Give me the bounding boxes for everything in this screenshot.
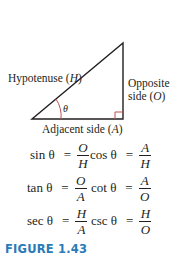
adjacent-label: Adjacent side (A) [42,123,123,136]
equation-sec: sec θ= HA [27,206,87,236]
equation-cot: cot θ= AO [91,173,151,203]
figure-caption: FIGURE 1.43 [5,242,87,256]
figure: Hypotenuse (H) Opposite side (O) θ Adjac… [0,0,172,261]
equation-sin: sin θ= OH [30,140,89,170]
angle-arc-icon [56,99,61,119]
equation-row: tan θ= OA cot θ= AO [0,173,172,203]
hypotenuse-label: Hypotenuse (H) [8,72,82,85]
equation-tan: tan θ= OA [27,173,87,203]
equation-row: sec θ= HA csc θ= HO [0,206,172,236]
equation-row: sin θ= OH cos θ= AH [0,140,172,170]
right-angle-marker-icon [115,112,123,119]
equation-csc: csc θ= HO [91,206,151,236]
opposite-label-line2: side (O) [128,90,165,103]
opposite-label-line1: Opposite [128,77,170,90]
right-triangle-diagram [0,0,172,130]
equation-cos: cos θ= AH [90,140,151,170]
theta-label: θ [63,102,68,115]
